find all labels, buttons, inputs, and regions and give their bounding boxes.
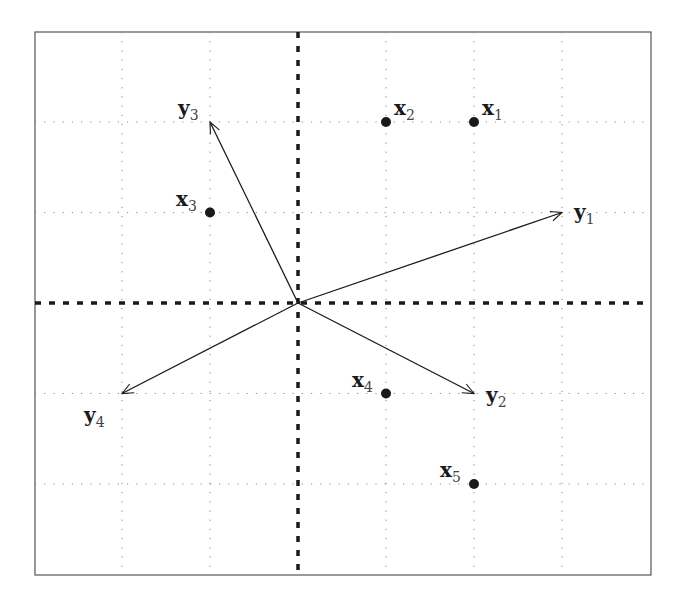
x4-label: x4	[352, 368, 373, 395]
vector-y4-arrow-icon	[122, 303, 298, 394]
vector-diagram: y1y2y3y4 x1x2x3x4x5	[0, 0, 691, 607]
y3-label: y3	[177, 96, 199, 123]
point-group: x1x2x3x4x5	[176, 96, 503, 489]
vector-group: y1y2y3y4	[83, 96, 595, 430]
vector-y1-arrow-icon	[298, 213, 562, 304]
y1-label: y1	[573, 200, 595, 227]
y2-label: y2	[485, 383, 507, 410]
x1-label: x1	[482, 96, 503, 123]
x2-label: x2	[394, 96, 415, 123]
point-x1-dot-icon	[469, 117, 479, 127]
point-x2-dot-icon	[381, 117, 391, 127]
axes	[35, 32, 651, 575]
point-x3-dot-icon	[205, 208, 215, 218]
vector-y2-arrow-icon	[298, 303, 474, 394]
point-x4-dot-icon	[381, 389, 391, 399]
vector-y3-arrow-icon	[210, 122, 298, 303]
y4-label: y4	[83, 403, 105, 430]
x3-label: x3	[176, 187, 197, 214]
point-x5-dot-icon	[469, 479, 479, 489]
x5-label: x5	[440, 458, 461, 485]
